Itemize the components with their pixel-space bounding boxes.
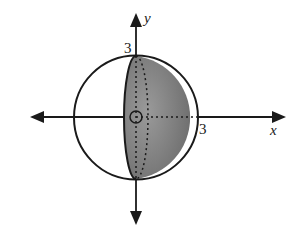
y-axis-label: y: [142, 10, 151, 26]
x-axis-label: x: [269, 122, 277, 138]
y-axis-bottom-arrow-icon: [130, 211, 142, 225]
x-tick-label: 3: [199, 121, 207, 137]
y-axis-top-arrow-icon: [130, 13, 142, 27]
y-tick-label: 3: [124, 40, 132, 56]
x-axis-left-arrow-icon: [30, 111, 44, 123]
hemisphere-diagram: y 3 3 x: [0, 0, 300, 236]
